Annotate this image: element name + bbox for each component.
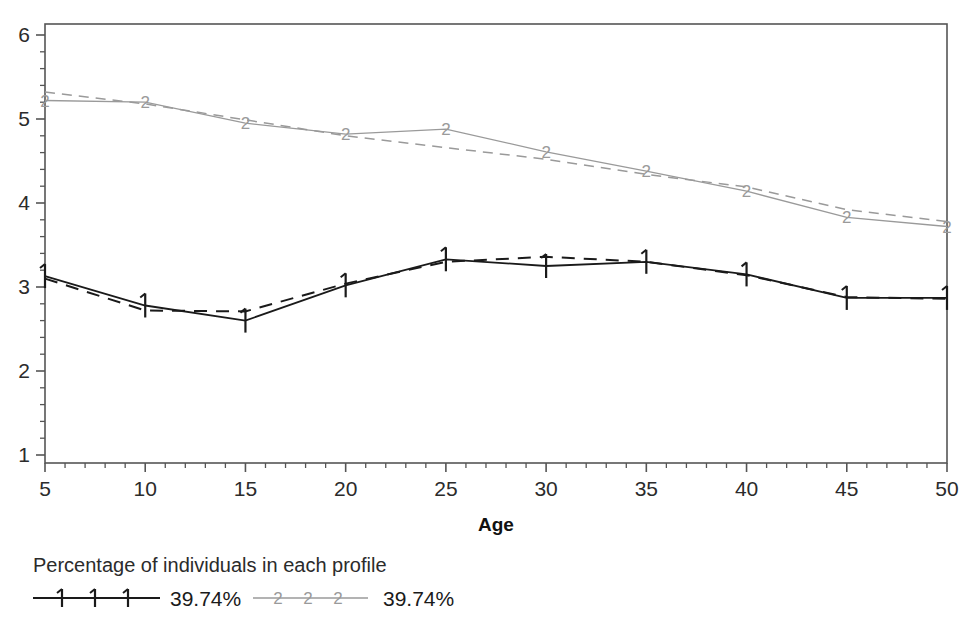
legend-marker-2: 2 [303, 589, 312, 608]
series-group-2: 2222222222 [40, 92, 951, 237]
x-axis-title: Age [478, 514, 514, 535]
legend-marker-2: 2 [333, 589, 342, 608]
x-tick-label: 35 [635, 477, 658, 500]
series-marker-2: 2 [642, 162, 651, 181]
y-tick-label: 6 [18, 23, 30, 46]
x-tick-label: 45 [835, 477, 858, 500]
x-tick-label: 15 [234, 477, 257, 500]
series-marker-2: 2 [341, 125, 350, 144]
x-tick-label: 40 [735, 477, 758, 500]
y-tick-label: 1 [18, 443, 30, 466]
x-tick-label: 30 [534, 477, 557, 500]
legend-marker-2: 2 [273, 589, 282, 608]
series-marker-1 [40, 264, 45, 288]
chart-canvas: 12345651015202530354045502222222222AgePe… [0, 0, 977, 629]
legend-entry-1[interactable]: 39.74% [33, 587, 241, 610]
line-chart: 12345651015202530354045502222222222AgePe… [0, 0, 977, 629]
series-observed-line-1 [45, 259, 947, 320]
series-group-1 [40, 247, 947, 332]
series-fitted-line-1 [45, 257, 947, 312]
x-tick-label: 50 [935, 477, 958, 500]
series-marker-2: 2 [541, 143, 550, 162]
legend-label-2: 39.74% [383, 587, 454, 610]
series-marker-2: 2 [140, 93, 149, 112]
x-tick-label: 25 [434, 477, 457, 500]
series-fitted-line-2 [45, 92, 947, 221]
y-tick-label: 2 [18, 359, 30, 382]
y-tick-label: 3 [18, 275, 30, 298]
series-marker-2: 2 [441, 120, 450, 139]
x-tick-label: 10 [134, 477, 157, 500]
y-tick-label: 5 [18, 107, 30, 130]
x-tick-label: 5 [39, 477, 51, 500]
plot-frame [45, 24, 947, 463]
y-tick-label: 4 [18, 191, 30, 214]
legend-entry-2[interactable]: 22239.74% [253, 587, 454, 610]
series-observed-line-2 [45, 101, 947, 227]
series-marker-2: 2 [742, 182, 751, 201]
series-marker-2: 2 [40, 92, 49, 111]
x-tick-label: 20 [334, 477, 357, 500]
series-marker-2: 2 [842, 208, 851, 227]
legend-label-1: 39.74% [170, 587, 241, 610]
series-marker-2: 2 [942, 218, 951, 237]
legend-title: Percentage of individuals in each profil… [33, 554, 387, 576]
legend: Percentage of individuals in each profil… [33, 554, 454, 610]
series-marker-2: 2 [241, 114, 250, 133]
